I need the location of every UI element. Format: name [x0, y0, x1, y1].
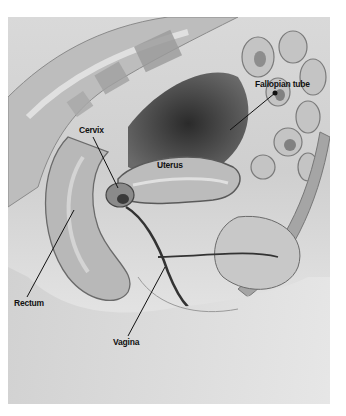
anatomy-drawing [8, 17, 330, 404]
label-rectum: Rectum [14, 299, 44, 308]
label-vagina: Vagina [113, 338, 139, 347]
pelvic-anatomy-illustration: Fallopian tube Cervix Uterus Rectum Vagi… [8, 17, 330, 404]
label-uterus: Uterus [157, 161, 183, 170]
label-cervix: Cervix [79, 126, 104, 135]
label-fallopian-tube: Fallopian tube [255, 80, 310, 89]
